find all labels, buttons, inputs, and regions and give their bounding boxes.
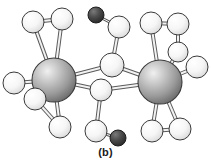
molecule-diagram bbox=[0, 0, 211, 168]
atom-layer bbox=[3, 7, 208, 146]
light-atom-left-lower-inner bbox=[24, 88, 46, 110]
light-atom-right-mid bbox=[168, 42, 188, 62]
metal-atom-right bbox=[138, 60, 182, 104]
light-atom-top-right-inner bbox=[140, 12, 162, 34]
light-atom-bottom-right-inner bbox=[141, 120, 163, 142]
light-atom-upper-bridge-chain bbox=[108, 16, 130, 38]
bridging-atom-upper bbox=[100, 53, 124, 77]
figure-caption: (b) bbox=[0, 146, 211, 158]
light-atom-top-left-outer bbox=[22, 11, 44, 33]
light-atom-left-outer bbox=[3, 72, 25, 94]
dark-atom-top bbox=[88, 7, 104, 23]
light-atom-lower-bridge-chain bbox=[85, 120, 107, 142]
bridging-atom-lower bbox=[90, 79, 112, 101]
dark-atom-bottom bbox=[110, 130, 126, 146]
light-atom-top-right-outer bbox=[167, 13, 189, 35]
molecular-structure-figure: (b) bbox=[0, 0, 211, 168]
light-atom-right-outer bbox=[186, 56, 208, 78]
light-atom-top-left-inner bbox=[51, 8, 73, 30]
light-atom-bottom-left bbox=[49, 116, 71, 138]
light-atom-bottom-right-outer bbox=[169, 118, 191, 140]
